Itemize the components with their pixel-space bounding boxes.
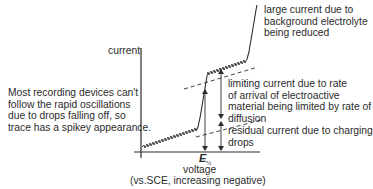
annotation-line: drops [228, 137, 373, 149]
annotation-line: background electrolyte [264, 16, 368, 28]
background-annotation: large current due to background electrol… [264, 4, 368, 39]
spikey-note: Most recording devices can't follow the … [8, 87, 151, 133]
annotation-line: material being limited by rate of [228, 101, 371, 113]
x-axis-sublabel: (vs.SCE, increasing negative) [130, 175, 266, 187]
x-axis-label: voltage [183, 164, 216, 176]
background-rise [247, 5, 257, 59]
annotation-line: residual current due to charging [228, 125, 373, 137]
annotation-line: limiting current due to rate [228, 78, 371, 90]
annotation-line: large current due to [264, 4, 368, 16]
annotation-line: follow the rapid oscillations [8, 99, 151, 111]
annotation-line: trace has a spikey appearance. [8, 122, 151, 134]
annotation-line: being reduced [264, 27, 368, 39]
annotation-line: due to drops falling off, so [8, 110, 151, 122]
annotation-line: Most recording devices can't [8, 87, 151, 99]
annotation-line: diffusion [228, 113, 371, 125]
limiting-trace [207, 59, 247, 76]
residual-annotation: residual current due to charging drops [228, 125, 373, 148]
y-axis-label: current [108, 45, 140, 57]
annotation-line: of arrival of electroactive [228, 90, 371, 102]
limiting-annotation: limiting current due to rate of arrival … [228, 78, 371, 124]
